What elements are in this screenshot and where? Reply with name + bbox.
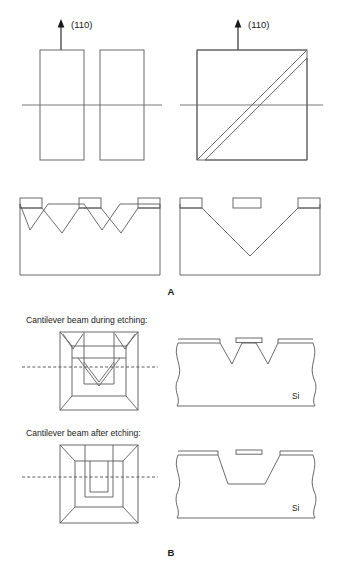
mask-strip-right-floating bbox=[233, 198, 261, 208]
pit-bevel-bl-during bbox=[60, 396, 72, 410]
etching-diagram-canvas: (110) (110) bbox=[0, 0, 341, 574]
etched-surface-after bbox=[178, 455, 313, 484]
direction-label-right: (110) bbox=[248, 19, 269, 30]
break-edge-right-during bbox=[312, 343, 316, 406]
pit-bevel-tr-after bbox=[123, 445, 138, 461]
cantilever-top-view-during bbox=[22, 332, 158, 410]
mask-strip-left-1 bbox=[20, 198, 42, 208]
etch-front-v-left-during bbox=[63, 334, 83, 349]
break-edge-left-during bbox=[176, 343, 180, 406]
mask-strip-right-1 bbox=[180, 198, 202, 208]
panel-a-rotated-cross-section bbox=[180, 198, 320, 275]
material-label-si-after: Si bbox=[292, 504, 299, 513]
v-groove-left-2 bbox=[101, 208, 138, 233]
substrate-body-left bbox=[20, 204, 160, 275]
cantilever-cross-section-after: Si bbox=[176, 450, 316, 518]
pit-bevel-tl-after bbox=[60, 445, 75, 461]
etched-surface-during bbox=[178, 343, 313, 364]
pit-bevel-br-after bbox=[123, 507, 138, 523]
v-groove-right-merged bbox=[202, 208, 298, 256]
panel-label-a: A bbox=[168, 286, 175, 297]
cantilever-top-view-after bbox=[22, 445, 158, 523]
caption-after-etching: Cantilever beam after etching: bbox=[26, 428, 141, 438]
etch-front-v-right-during bbox=[115, 334, 135, 349]
figure-root: (110) (110) bbox=[0, 0, 341, 574]
cantilever-inner-outline-after bbox=[90, 461, 108, 492]
cantilever-cross-section-during: Si bbox=[176, 338, 316, 406]
panel-a-aligned-cross-section bbox=[20, 198, 160, 275]
direction-arrow-head-left bbox=[58, 19, 65, 28]
panel-a-aligned-mask-top-view: (110) bbox=[22, 19, 162, 160]
substrate-body-right-walls bbox=[180, 204, 320, 275]
direction-label-left: (110) bbox=[71, 19, 92, 30]
pit-outer-square-after bbox=[60, 445, 138, 523]
break-edge-right-after bbox=[312, 455, 316, 518]
pit-floor-rect-during bbox=[72, 346, 126, 396]
mask-strip-right-3 bbox=[298, 198, 320, 208]
panel-label-b: B bbox=[168, 547, 175, 558]
mask-strip-during-beam bbox=[236, 338, 262, 343]
cantilever-outline-after bbox=[85, 445, 113, 497]
mask-strip-after-beam bbox=[236, 450, 262, 454]
direction-arrow-head-right bbox=[235, 19, 242, 28]
panel-a-rotated-mask-top-view: (110) bbox=[180, 19, 323, 160]
break-edge-left-after bbox=[176, 455, 180, 518]
v-groove-left-1 bbox=[42, 208, 79, 233]
material-label-si-during: Si bbox=[292, 392, 299, 401]
pit-bevel-bl-after bbox=[60, 507, 75, 523]
mask-strip-left-3 bbox=[138, 198, 160, 208]
diagonal-mask-window-2 bbox=[205, 58, 307, 160]
pit-bevel-br-during bbox=[126, 396, 138, 410]
caption-during-etching: Cantilever beam during etching: bbox=[26, 315, 147, 325]
pit-floor-rect-after bbox=[75, 461, 123, 507]
mask-strip-left-2 bbox=[79, 198, 101, 208]
